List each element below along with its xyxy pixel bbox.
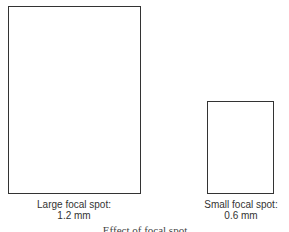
figure-caption: Effect of focal spot (60, 224, 230, 232)
large-focal-spot-label: Large focal spot: 1.2 mm (24, 199, 124, 221)
large-focal-spot-rectangle (8, 6, 141, 194)
small-focal-spot-title: Small focal spot: (191, 199, 289, 210)
large-focal-spot-size: 1.2 mm (24, 210, 124, 221)
large-focal-spot-title: Large focal spot: (24, 199, 124, 210)
small-focal-spot-label: Small focal spot: 0.6 mm (191, 199, 289, 221)
small-focal-spot-size: 0.6 mm (191, 210, 289, 221)
small-focal-spot-rectangle (207, 101, 274, 194)
